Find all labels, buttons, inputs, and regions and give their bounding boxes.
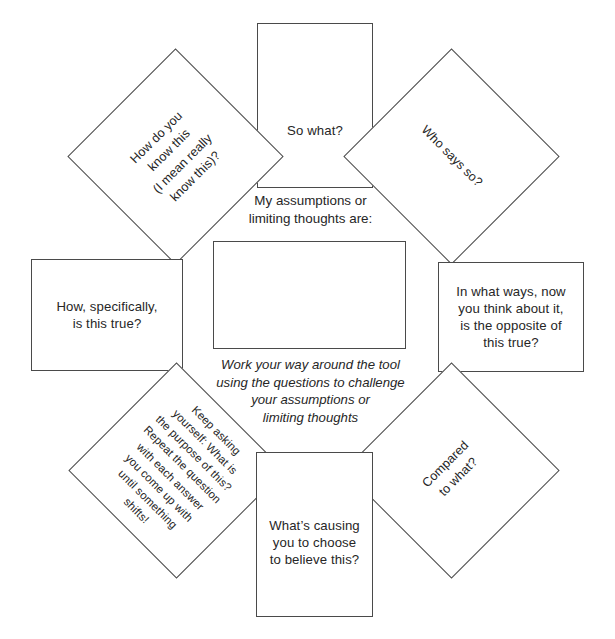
assumptions-prompt-label: My assumptions or limiting thoughts are: bbox=[193, 192, 428, 227]
question-text-compared-to-what: Compared to what? bbox=[386, 405, 518, 537]
question-diamond-who-says-so[interactable]: Who says so? bbox=[343, 48, 559, 264]
question-text-whats-causing: What’s causing you to choose to believe … bbox=[269, 517, 360, 568]
question-box-opposite-true[interactable]: In what ways, now you think about it, is… bbox=[438, 262, 584, 372]
question-text-opposite-true: In what ways, now you think about it, is… bbox=[456, 283, 565, 352]
assumptions-answer-field[interactable] bbox=[213, 241, 406, 349]
question-box-whats-causing[interactable]: What’s causing you to choose to believe … bbox=[256, 452, 373, 617]
question-text-so-what: So what? bbox=[287, 122, 343, 139]
question-box-how-specifically[interactable]: How, specifically, is this true? bbox=[31, 259, 183, 371]
question-diamond-how-do-you-know[interactable]: How do you know this (I mean really know… bbox=[67, 48, 283, 264]
assumption-tool-diagram: So what? How do you know this (I mean re… bbox=[0, 0, 615, 639]
question-text-how-specifically: How, specifically, is this true? bbox=[56, 298, 157, 332]
